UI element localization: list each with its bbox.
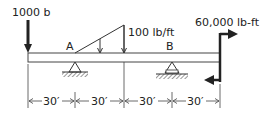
beam-diagram: 1000 b 100 lb/ft A B 60,000 lb-ft xyxy=(0,0,266,118)
support-a-label: A xyxy=(66,40,74,53)
point-load-label: 1000 b xyxy=(12,6,50,19)
moment: 60,000 lb-ft xyxy=(195,16,260,85)
beam xyxy=(28,53,220,62)
support-b-roller-icon xyxy=(156,62,188,79)
dimension-labels: 30′ 30′ 30′ 30′ xyxy=(43,95,204,108)
dimension-label: 30′ xyxy=(187,95,204,108)
distributed-load-label: 100 lb/ft xyxy=(128,26,175,39)
support-b-label: B xyxy=(166,40,174,53)
dimension-label: 30′ xyxy=(139,95,156,108)
point-load: 1000 b xyxy=(12,6,50,53)
support-a-pin-icon xyxy=(62,62,88,77)
dimension-label: 30′ xyxy=(43,95,60,108)
dimension-label: 30′ xyxy=(91,95,108,108)
moment-arrow-right-icon xyxy=(228,29,238,39)
moment-arrow-left-icon xyxy=(204,75,214,85)
distributed-load: 100 lb/ft xyxy=(75,25,175,53)
moment-label: 60,000 lb-ft xyxy=(195,16,260,29)
